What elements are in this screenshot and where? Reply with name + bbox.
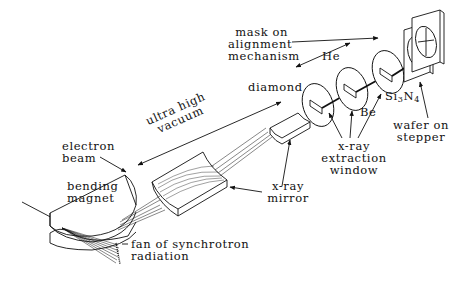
label-si3n4: Si3N4: [385, 90, 420, 106]
label-wafer-on-stepper: wafer on stepper: [388, 119, 454, 143]
label-fan-of-synchrotron-radiation: fan of synchrotron radiation: [131, 238, 249, 262]
label-mirror-line2: mirror: [262, 192, 314, 204]
label-be: Be: [360, 106, 376, 118]
label-n-sub: 4: [414, 95, 420, 104]
wafer-leader: [420, 82, 428, 118]
label-electron-beam: electron beam: [62, 140, 115, 164]
beam-to-windows: [212, 128, 272, 176]
mask-leader: [292, 38, 378, 42]
label-electron-line2: beam: [62, 152, 115, 164]
label-x-ray-extraction-window: x-ray extraction window: [318, 140, 390, 176]
label-fan-line2: radiation: [131, 250, 249, 262]
label-bending-magnet: bending magnet: [67, 180, 119, 204]
label-n: N: [403, 89, 414, 103]
label-wafer-line2: stepper: [388, 131, 454, 143]
label-diamond: diamond: [248, 81, 303, 93]
window-leader-1: [329, 113, 342, 138]
label-he: He: [322, 50, 340, 62]
label-mask-line3: mechanism: [228, 50, 288, 62]
label-x-ray-mirror: x-ray mirror: [262, 180, 314, 204]
label-si: Si: [385, 89, 398, 103]
label-mask-on-alignment-mechanism: mask on alignment mechanism: [228, 26, 288, 62]
wafer-frame: [412, 10, 444, 72]
label-window-line3: window: [318, 164, 390, 176]
label-bending-line2: magnet: [67, 192, 119, 204]
diamond-window-block: [270, 113, 310, 144]
window-leader-2: [350, 111, 352, 138]
x-ray-mirror-shape: [152, 152, 227, 216]
mirror-leader: [230, 187, 262, 192]
